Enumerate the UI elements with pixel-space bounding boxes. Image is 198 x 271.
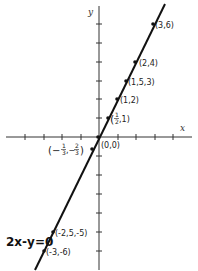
point-2-4 (133, 60, 137, 64)
svg-text:(−: (− (48, 145, 60, 156)
label-3-6: (3,6) (155, 21, 174, 30)
point-0-0 (96, 135, 100, 139)
svg-text:,1): ,1) (119, 115, 130, 124)
linear-equation-graph: x y (3,6) (2,4) (1,5,3) (1,2) ( 1 2 ,1) … (0, 0, 198, 271)
svg-text:2: 2 (75, 142, 79, 149)
label-half-1: ( 1 2 ,1) (110, 111, 130, 126)
y-axis-label: y (87, 7, 94, 17)
label-m2.5-m5: (-2,5,-5) (55, 229, 87, 238)
svg-text:(: ( (110, 113, 114, 126)
label-third: (− 1 3 ,− 2 3 ) (48, 142, 84, 156)
point-third (90, 147, 94, 151)
label-m3-m6: (-3,-6) (46, 248, 71, 257)
label-1.5-3: (1,5,3) (128, 78, 155, 87)
label-1-2: (1,2) (120, 96, 139, 105)
svg-text:3: 3 (75, 149, 79, 156)
x-axis-label: x (180, 123, 185, 133)
equation-label: 2x-y=0 (6, 235, 53, 249)
label-2-4: (2,4) (139, 59, 158, 68)
point-1-2 (115, 97, 119, 101)
label-0-0: (0,0) (101, 141, 120, 150)
svg-text:,−: ,− (66, 146, 75, 155)
svg-text:): ) (80, 145, 84, 156)
